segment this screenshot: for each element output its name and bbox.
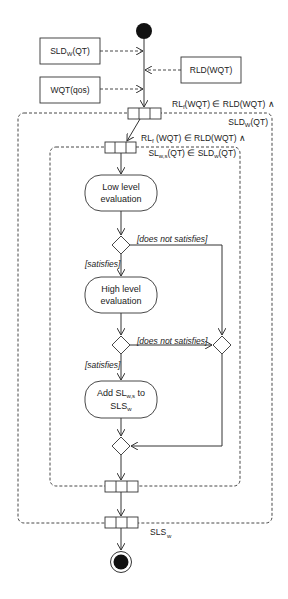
outer-g2-base: SLD: [228, 117, 245, 127]
merge-node-final: [112, 437, 130, 455]
low-line1: Low level: [102, 182, 140, 192]
activity-add-to-sls: Add SLw,s to SLSw: [85, 381, 157, 418]
add-line2-base: SLS: [110, 401, 127, 411]
decision-node-1: [112, 236, 130, 254]
add-line2-sub: w: [126, 406, 132, 412]
wqt-label: WQT(qos): [50, 85, 89, 95]
outer-g2-tail: (QT): [251, 117, 269, 127]
activity-high-level-evaluation: High level evaluation: [85, 277, 157, 313]
sld-base: SLD: [50, 46, 67, 56]
guard-satisfies-1: [satisfies]: [84, 259, 121, 269]
outer-input-pin: [128, 108, 161, 119]
output-base: SLS: [150, 527, 166, 537]
guard-not-satisfies-1: [does not satisfies]: [136, 234, 208, 244]
sld-tail: (QT): [72, 46, 90, 56]
inner-g2-mid: (QT) ∈ SLD: [167, 148, 214, 158]
inner-input-pin: [105, 142, 136, 153]
inner-guard-line2: SLw,s(QT) ∈ SLDw(QT): [148, 148, 236, 159]
inner-g2-tail: (QT): [219, 148, 237, 158]
low-line2: evaluation: [100, 194, 141, 204]
outer-output-pin: [105, 517, 138, 528]
guard-satisfies-2: [satisfies]: [84, 360, 121, 370]
inner-g1-base: RL: [141, 133, 152, 143]
add-post: to: [135, 388, 145, 398]
final-node: [111, 552, 132, 573]
high-line2: evaluation: [100, 296, 141, 306]
high-line1: High level: [101, 284, 141, 294]
merge-node-right: [213, 336, 231, 354]
inner-guard-line1: RLf (WQT) ∈ RLD(WQT) ∧: [141, 133, 246, 144]
flow-outer-to-inner: [127, 119, 140, 141]
outer-guard-line1: RLf(WQT) ∈ RLD(WQT) ∧: [172, 99, 275, 110]
rld-label: RLD(WQT): [190, 65, 233, 75]
inner-g2-sub: w,s: [158, 153, 168, 159]
outer-g1-tail: (WQT) ∈ RLD(WQT) ∧: [185, 99, 275, 109]
initial-node: [136, 23, 152, 39]
activity-diagram: SLDW(QT) WQT(qos) RLD(WQT) RLf(WQT) ∈ RL…: [0, 0, 288, 599]
outer-expansion-region: [18, 113, 272, 523]
add-pre: Add SL: [97, 388, 127, 398]
object-sld-wqt: SLDW(QT): [40, 38, 100, 64]
object-wqt: WQT(qos): [40, 77, 100, 103]
object-rld: RLD(WQT): [181, 57, 241, 83]
decision-node-2: [112, 336, 130, 354]
inner-g2-base: SL: [148, 148, 159, 158]
outer-guard-line2: SLDW(QT): [228, 117, 268, 128]
outer-g1-base: RL: [172, 99, 183, 109]
inner-g1-tail: (WQT) ∈ RLD(WQT) ∧: [154, 133, 246, 143]
output-sub: w: [166, 533, 172, 539]
activity-low-level-evaluation: Low level evaluation: [85, 175, 157, 211]
add-sub: w,s: [125, 393, 135, 399]
add-line1: Add SLw,s to: [97, 388, 145, 399]
inner-output-pin: [105, 481, 138, 492]
output-label: SLSw: [150, 527, 172, 539]
